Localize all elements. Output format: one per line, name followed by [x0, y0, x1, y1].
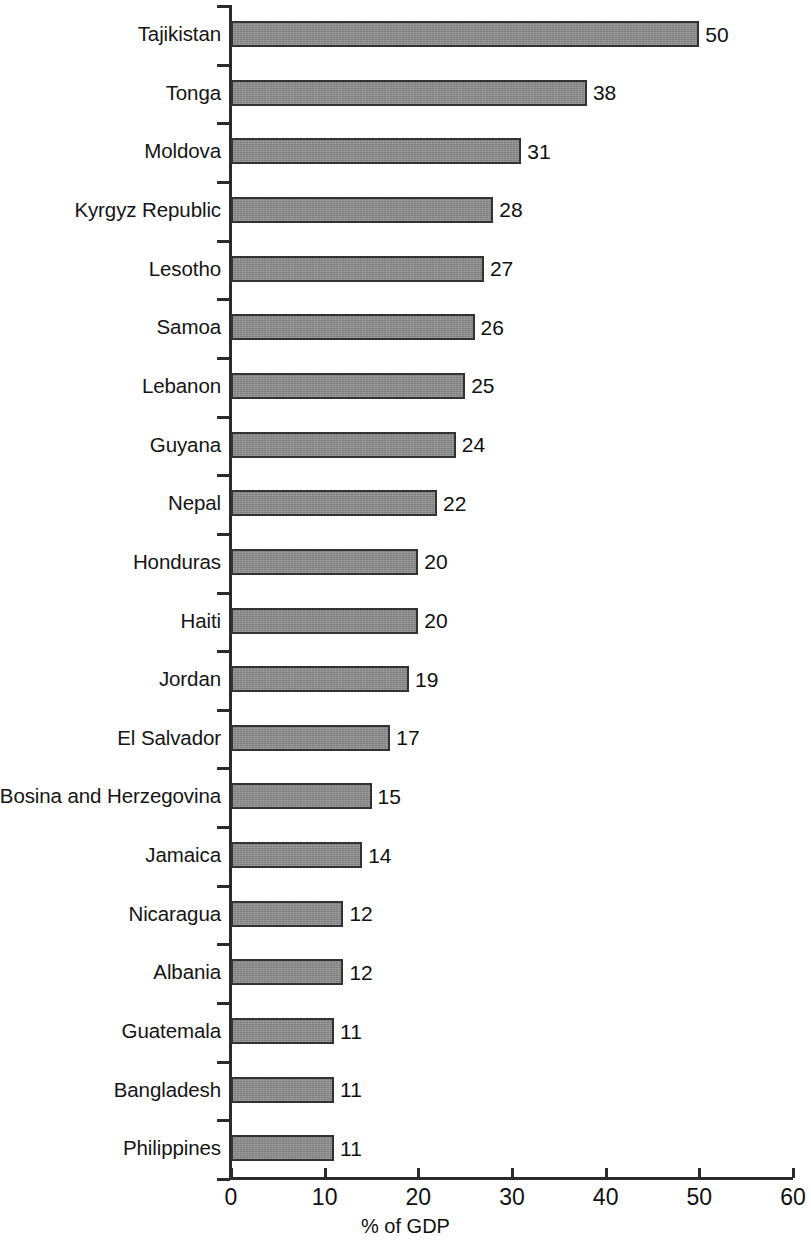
bar-with-value: 12 — [231, 959, 373, 985]
y-axis-tick — [217, 709, 230, 712]
y-axis-tick — [217, 1061, 230, 1064]
category-label: Jordan — [159, 669, 221, 690]
bar-with-value: 27 — [231, 256, 513, 282]
bar — [231, 432, 456, 458]
y-axis-tick — [217, 5, 230, 8]
y-axis-tick — [217, 943, 230, 946]
y-axis-tick — [217, 474, 230, 477]
bar-row: Jordan19 — [0, 650, 811, 708]
bar-with-value: 24 — [231, 432, 485, 458]
bar — [231, 138, 521, 164]
x-axis-tick-label: 40 — [593, 1186, 619, 1209]
bar-with-value: 20 — [231, 549, 448, 575]
bar-row: Lesotho27 — [0, 240, 811, 298]
y-axis-tick — [217, 826, 230, 829]
category-label: Guatemala — [122, 1021, 221, 1042]
bar-row: Guatemala11 — [0, 1002, 811, 1060]
bar-row: Haiti20 — [0, 592, 811, 650]
y-axis-tick — [217, 416, 230, 419]
bar — [231, 901, 343, 927]
category-label: Albania — [153, 962, 221, 983]
x-axis-title: % of GDP — [0, 1216, 811, 1236]
y-axis-tick — [217, 1178, 230, 1181]
bar-value-label: 11 — [340, 1021, 362, 1042]
bar-with-value: 31 — [231, 138, 551, 164]
bar-row: Guyana24 — [0, 416, 811, 474]
category-label: Jamaica — [145, 845, 221, 866]
category-label: Tajikistan — [138, 24, 221, 45]
bar-with-value: 14 — [231, 842, 391, 868]
bar-with-value: 28 — [231, 197, 523, 223]
bar-value-label: 19 — [415, 669, 438, 690]
category-label: Lebanon — [142, 376, 221, 397]
bar — [231, 256, 484, 282]
bar-with-value: 22 — [231, 490, 466, 516]
bar — [231, 314, 475, 340]
y-axis-tick — [217, 122, 230, 125]
category-label: Kyrgyz Republic — [74, 200, 221, 221]
category-label: Moldova — [144, 141, 221, 162]
y-axis-tick — [217, 592, 230, 595]
bar-row: El Salvador17 — [0, 709, 811, 767]
bar-row: Albania12 — [0, 943, 811, 1001]
bar-row: Kyrgyz Republic28 — [0, 181, 811, 239]
bar-value-label: 22 — [443, 493, 466, 514]
bar-value-label: 15 — [378, 786, 401, 807]
bar — [231, 725, 390, 751]
bar-value-label: 11 — [340, 1138, 362, 1159]
bar-row: Samoa26 — [0, 298, 811, 356]
x-axis-tick — [698, 1168, 701, 1178]
y-axis-tick — [217, 240, 230, 243]
x-axis-tick — [324, 1168, 327, 1178]
bar-row: Philippines11 — [0, 1119, 811, 1177]
bar-with-value: 50 — [231, 21, 729, 47]
bar-value-label: 31 — [527, 141, 550, 162]
bar-row: Bangladesh11 — [0, 1061, 811, 1119]
bar — [231, 842, 362, 868]
x-axis-tick-label: 60 — [780, 1186, 806, 1209]
plot-area: Tajikistan50Tonga38Moldova31Kyrgyz Repub… — [0, 0, 811, 1240]
x-axis-tick-label: 10 — [312, 1186, 338, 1209]
bar-with-value: 19 — [231, 666, 438, 692]
bar-value-label: 14 — [368, 845, 391, 866]
y-axis-tick — [217, 885, 230, 888]
x-axis-tick-label: 0 — [225, 1186, 238, 1209]
bar — [231, 783, 372, 809]
bar — [231, 1135, 334, 1161]
category-label: El Salvador — [117, 728, 221, 749]
category-label: Honduras — [133, 552, 221, 573]
bar-value-label: 20 — [424, 551, 447, 572]
bar — [231, 80, 587, 106]
bar-value-label: 12 — [349, 903, 372, 924]
bar-value-label: 24 — [462, 434, 485, 455]
bar-row: Jamaica14 — [0, 826, 811, 884]
bar-with-value: 15 — [231, 783, 401, 809]
bar — [231, 490, 437, 516]
bar-value-label: 20 — [424, 610, 447, 631]
bar-row: Nepal22 — [0, 474, 811, 532]
y-axis-tick — [217, 650, 230, 653]
bar-row: Nicaragua12 — [0, 885, 811, 943]
category-label: Haiti — [180, 610, 221, 631]
x-axis-tick — [511, 1168, 514, 1178]
category-label: Guyana — [150, 434, 221, 455]
x-axis-tick-label: 30 — [499, 1186, 525, 1209]
y-axis-tick — [217, 64, 230, 67]
bar-row: Honduras20 — [0, 533, 811, 591]
category-label: Tonga — [166, 82, 221, 103]
bar-row: Lebanon25 — [0, 357, 811, 415]
category-label: Bosina and Herzegovina — [0, 786, 221, 807]
y-axis-tick — [217, 357, 230, 360]
bar-with-value: 38 — [231, 80, 616, 106]
bar — [231, 21, 699, 47]
bar-row: Bosina and Herzegovina15 — [0, 767, 811, 825]
bar — [231, 197, 493, 223]
y-axis-tick — [217, 1002, 230, 1005]
category-label: Nepal — [168, 493, 221, 514]
bar-value-label: 27 — [490, 258, 513, 279]
y-axis-tick — [217, 298, 230, 301]
bar-value-label: 50 — [705, 24, 728, 45]
remittances-bar-chart: Tajikistan50Tonga38Moldova31Kyrgyz Repub… — [0, 0, 811, 1240]
category-label: Samoa — [157, 317, 221, 338]
category-label: Bangladesh — [114, 1079, 221, 1100]
